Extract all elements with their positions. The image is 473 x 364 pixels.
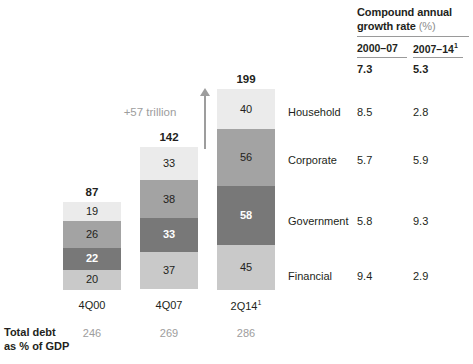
cagr-title-line2: growth rate [357,20,416,32]
category-cagr-2007-14: 9.3 [413,215,469,227]
footer-label-line2: as % of GDP [4,340,69,352]
bar-segment-corporate: 56 [217,129,275,186]
bar-segment-value: 56 [240,152,252,163]
chart-canvas: Compound annual growth rate (%) 2000–07 … [0,0,473,364]
footer-label-line1: Total debt [4,326,56,338]
bar-segment-financial: 20 [63,270,121,290]
category-cagr-2007-14: 5.9 [413,154,469,166]
cagr-col-2007-14: 2007–141 [413,42,469,58]
category-cagr-2007-14: 2.8 [413,106,469,118]
footnote-marker: 1 [454,42,458,49]
bar-segment-value: 58 [240,210,252,221]
x-axis-label: 4Q07 [140,299,198,311]
cagr-title-divider [357,36,469,37]
bar-segment-corporate: 26 [63,221,121,247]
stacked-bar: 40565845 [217,89,275,290]
x-axis-label: 2Q141 [217,299,275,312]
footer-total-value: 246 [63,327,121,339]
bar-total-label: 142 [140,131,198,143]
bar-segment-value: 26 [86,229,98,240]
cagr-column-headers: 2000–07 2007–141 [357,42,469,58]
category-cagr-2000-07: 5.8 [357,215,413,227]
category-row-household: Household 8.5 2.8 [288,106,469,118]
bar-segment-financial: 37 [140,252,198,289]
category-cagr-2000-07: 5.7 [357,154,413,166]
bar-segment-value: 33 [163,158,175,169]
cagr-title-unit: (%) [419,20,436,32]
category-row-corporate: Corporate 5.7 5.9 [288,154,469,166]
growth-arrow-icon [200,88,211,149]
bar-total-label: 199 [217,73,275,85]
stacked-bar: 19262220 [63,202,121,290]
cagr-total-2007-14: 5.3 [413,63,428,75]
cagr-title-line1: Compound annual [357,6,452,18]
arrow-shaft [204,94,206,149]
bar-segment-value: 22 [86,253,98,264]
bar-segment-government: 58 [217,186,275,245]
bar-segment-value: 19 [86,206,98,217]
footnote-marker: 1 [258,299,262,306]
cagr-title: Compound annual growth rate (%) [357,6,469,33]
bar-segment-household: 33 [140,147,198,180]
cagr-total-2000-07: 7.3 [357,63,413,75]
stacked-bar: 33383337 [140,147,198,290]
category-row-government: Government 5.8 9.3 [288,215,469,227]
bar-segment-value: 38 [163,194,175,205]
delta-annotation: +57 trillion [104,106,196,118]
cagr-header-block: Compound annual growth rate (%) 2000–07 … [357,6,469,58]
bar-segment-value: 20 [86,274,98,285]
cagr-total-row: 7.3 5.3 [357,63,428,75]
category-cagr-2000-07: 8.5 [357,106,413,118]
category-cagr-2007-14: 2.9 [413,270,469,282]
bar-segment-value: 37 [163,265,175,276]
category-row-financial: Financial 9.4 2.9 [288,270,469,282]
footer-total-value: 286 [217,327,275,339]
x-axis-label: 4Q00 [63,299,121,311]
category-label: Corporate [288,154,357,166]
category-label: Household [288,106,357,118]
bar-segment-corporate: 38 [140,180,198,218]
bar-segment-government: 22 [63,248,121,270]
bar-segment-government: 33 [140,218,198,251]
bar-segment-value: 33 [163,229,175,240]
category-label: Government [288,215,357,227]
bar-segment-value: 40 [240,104,252,115]
category-label: Financial [288,270,357,282]
category-cagr-2000-07: 9.4 [357,270,413,282]
bar-segment-financial: 45 [217,245,275,290]
bar-total-label: 87 [63,186,121,198]
bar-segment-household: 19 [63,202,121,221]
footer-total-value: 269 [140,327,198,339]
bar-segment-household: 40 [217,89,275,129]
cagr-col-2000-07: 2000–07 [357,42,413,58]
bar-segment-value: 45 [240,262,252,273]
